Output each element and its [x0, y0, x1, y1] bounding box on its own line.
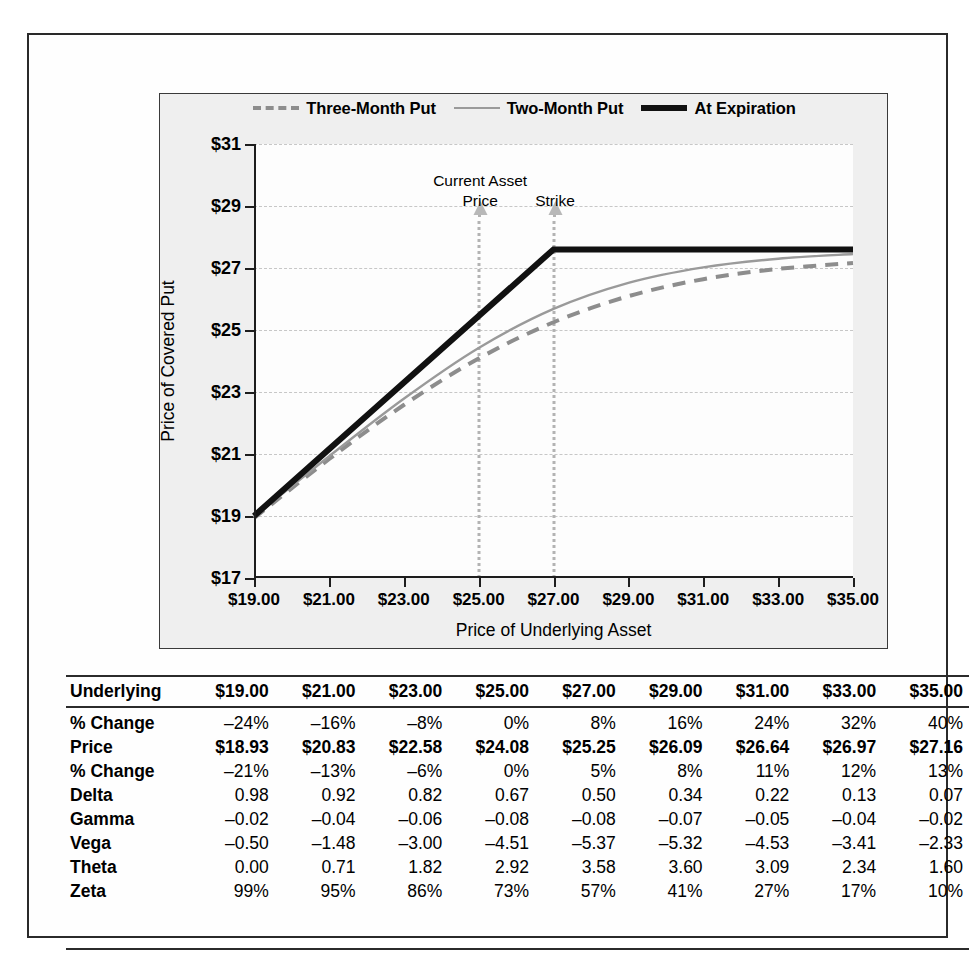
table-cell-r0-c3: 0% [448, 707, 535, 736]
table-cell-r4-c2: –0.06 [362, 808, 449, 832]
table-cell-r1-c4: $25.25 [535, 736, 622, 760]
table-cell-r5-c1: –1.48 [275, 832, 362, 856]
table-cell-r2-c6: 11% [709, 760, 796, 784]
chart-panel: Three-Month PutTwo-Month PutAt Expiratio… [159, 93, 888, 649]
table-cell-r2-c0: –21% [188, 760, 275, 784]
table-row: Zeta99%95%86%73%57%41%27%17%10% [66, 880, 969, 908]
table-header-cell-2: $23.00 [362, 676, 449, 707]
table-cell-r2-c4: 5% [535, 760, 622, 784]
x-axis-title: Price of Underlying Asset [254, 620, 853, 641]
y-tick-label-19: $19 [211, 506, 241, 527]
table-cell-r3-c8: 0.07 [882, 784, 969, 808]
x-tick-label-33: $33.00 [752, 590, 804, 610]
x-tick-29 [628, 578, 630, 587]
table-cell-r7-c8: 10% [882, 880, 969, 908]
legend-item-1: Two-Month Put [454, 100, 624, 117]
table-cell-r3-c5: 0.34 [622, 784, 709, 808]
y-axis-title: Price of Covered Put [158, 280, 179, 441]
table-cell-r4-c1: –0.04 [275, 808, 362, 832]
table-cell-r6-c4: 3.58 [535, 856, 622, 880]
x-tick-label-25: $25.00 [453, 590, 505, 610]
table-cell-r7-c4: 57% [535, 880, 622, 908]
legend-item-2: At Expiration [641, 100, 795, 117]
x-tick-27 [554, 578, 556, 587]
table-cell-r6-c1: 0.71 [275, 856, 362, 880]
table-cell-r2-c3: 0% [448, 760, 535, 784]
table-cell-r6-c3: 2.92 [448, 856, 535, 880]
y-tick-label-25: $25 [211, 320, 241, 341]
table-cell-r7-c0: 99% [188, 880, 275, 908]
y-tick-29 [245, 206, 254, 208]
table-header: Underlying $19.00$21.00$23.00$25.00$27.0… [66, 676, 969, 707]
table-header-cell-6: $31.00 [709, 676, 796, 707]
x-tick-35 [853, 578, 855, 587]
x-tick-25 [479, 578, 481, 587]
table-row: Theta0.000.711.822.923.583.603.092.341.6… [66, 856, 969, 880]
table-cell-r5-c3: –4.51 [448, 832, 535, 856]
table-cell-r1-c3: $24.08 [448, 736, 535, 760]
table-cell-r6-c0: 0.00 [188, 856, 275, 880]
table-cell-r3-c2: 0.82 [362, 784, 449, 808]
table-header-cell-7: $33.00 [795, 676, 882, 707]
table-row: Price$18.93$20.83$22.58$24.08$25.25$26.0… [66, 736, 969, 760]
legend-label: At Expiration [694, 100, 795, 117]
table-cell-r2-c2: –6% [362, 760, 449, 784]
table-cell-r4-c7: –0.04 [795, 808, 882, 832]
series-at-expiration [254, 249, 853, 516]
table-cell-r7-c1: 95% [275, 880, 362, 908]
table-cell-r2-c7: 12% [795, 760, 882, 784]
table-cell-r5-c8: –2.33 [882, 832, 969, 856]
y-tick-label-23: $23 [211, 382, 241, 403]
table-cell-r6-c8: 1.60 [882, 856, 969, 880]
table-cell-r1-c2: $22.58 [362, 736, 449, 760]
table-cell-r4-c5: –0.07 [622, 808, 709, 832]
y-tick-label-31: $31 [211, 134, 241, 155]
table-cell-r3-c7: 0.13 [795, 784, 882, 808]
table-header-cell-4: $27.00 [535, 676, 622, 707]
table-row: Gamma–0.02–0.04–0.06–0.08–0.08–0.07–0.05… [66, 808, 969, 832]
table-cell-r3-c4: 0.50 [535, 784, 622, 808]
y-tick-17 [245, 578, 254, 580]
table-cell-r0-c7: 32% [795, 707, 882, 736]
y-tick-label-17: $17 [211, 568, 241, 589]
table-header-cell-8: $35.00 [882, 676, 969, 707]
table-cell-r4-c0: –0.02 [188, 808, 275, 832]
table-row: Delta0.980.920.820.670.500.340.220.130.0… [66, 784, 969, 808]
chart-legend: Three-Month PutTwo-Month PutAt Expiratio… [160, 100, 889, 117]
table-cell-r0-c0: –24% [188, 707, 275, 736]
table-cell-r0-c4: 8% [535, 707, 622, 736]
table-row: Vega–0.50–1.48–3.00–4.51–5.37–5.32–4.53–… [66, 832, 969, 856]
table-cell-r1-c1: $20.83 [275, 736, 362, 760]
x-tick-label-29: $29.00 [602, 590, 654, 610]
x-tick-label-31: $31.00 [677, 590, 729, 610]
legend-label: Three-Month Put [306, 100, 436, 117]
legend-label: Two-Month Put [507, 100, 624, 117]
table-cell-r1-c6: $26.64 [709, 736, 796, 760]
dashed-line-icon [253, 106, 299, 110]
y-tick-21 [245, 454, 254, 456]
table-cell-r1-c7: $26.97 [795, 736, 882, 760]
x-tick-19 [254, 578, 256, 587]
table-cell-r3-c1: 0.92 [275, 784, 362, 808]
x-tick-31 [703, 578, 705, 587]
table-cell-r5-c0: –0.50 [188, 832, 275, 856]
table-cell-r4-c6: –0.05 [709, 808, 796, 832]
series-three-month-put [254, 263, 853, 518]
series-two-month-put [254, 254, 853, 517]
table-cell-r6-c5: 3.60 [622, 856, 709, 880]
y-tick-27 [245, 268, 254, 270]
table-row-label-7: Zeta [66, 880, 188, 908]
table-cell-r5-c4: –5.37 [535, 832, 622, 856]
table-header-row: Underlying $19.00$21.00$23.00$25.00$27.0… [66, 676, 969, 707]
series-curves [254, 144, 853, 578]
table-row-label-4: Gamma [66, 808, 188, 832]
y-tick-label-21: $21 [211, 444, 241, 465]
table-cell-r2-c5: 8% [622, 760, 709, 784]
table-row-label-1: Price [66, 736, 188, 760]
y-tick-25 [245, 330, 254, 332]
table-cell-r6-c2: 1.82 [362, 856, 449, 880]
x-tick-label-21: $21.00 [303, 590, 355, 610]
y-tick-label-29: $29 [211, 196, 241, 217]
table-row-label-2: % Change [66, 760, 188, 784]
y-tick-23 [245, 392, 254, 394]
